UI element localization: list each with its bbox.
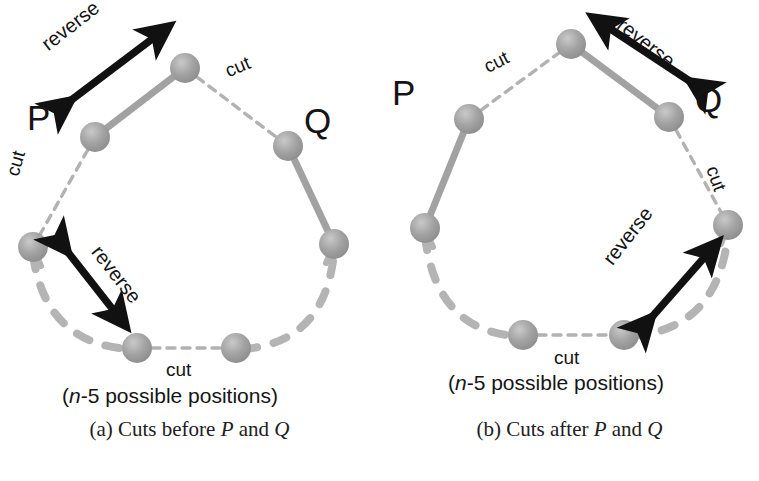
solid-edge-p-apex xyxy=(95,68,185,137)
caption-p-b: P xyxy=(594,417,607,441)
label-q-a: Q xyxy=(304,103,331,138)
solid-edge-q-right xyxy=(288,146,334,244)
panel-a: reverse cut P Q cut reverse cut (n-5 pos… xyxy=(0,0,379,481)
caption-b: (b) Cuts after P and Q xyxy=(380,419,759,440)
diagram-a-graphics xyxy=(0,0,379,400)
node-q-a xyxy=(273,131,303,161)
node-right-a xyxy=(319,229,349,259)
nodes-a xyxy=(18,53,349,363)
label-cut-bottom-a: cut xyxy=(166,360,191,379)
caption-a: (a) Cuts before P and Q xyxy=(0,419,379,440)
node-left-b xyxy=(410,213,440,243)
dashed-edge-p-left xyxy=(33,137,95,247)
node-q-b xyxy=(654,102,684,132)
node-apex-a xyxy=(170,53,200,83)
label-p-a: P xyxy=(27,100,50,135)
node-stems-b xyxy=(425,225,728,247)
annotation-n-b: n xyxy=(455,371,467,394)
caption-p-a: P xyxy=(221,417,234,441)
dashed-edge-apex-q xyxy=(185,68,288,146)
node-apex-b xyxy=(556,29,586,59)
panel-b: P cut reverse Q cut reverse cut (n-5 pos… xyxy=(380,0,759,481)
node-p-a xyxy=(80,122,110,152)
solid-edge-p-left xyxy=(425,119,469,228)
diagram-b-graphics xyxy=(380,0,759,400)
caption-text-b: Cuts after xyxy=(506,417,588,441)
nodes-b xyxy=(410,29,743,350)
node-bottom-right-a xyxy=(221,333,251,363)
annotation-positions-a: (n-5 possible positions) xyxy=(62,385,278,406)
annotation-open-paren-b: ( xyxy=(448,371,455,394)
node-left-a xyxy=(18,232,48,262)
caption-text-a: Cuts before xyxy=(118,417,215,441)
annotation-rest-a: -5 possible positions) xyxy=(81,384,278,407)
caption-and-a: and xyxy=(239,417,269,441)
node-p-b xyxy=(454,104,484,134)
caption-and-b: and xyxy=(612,417,642,441)
node-right-b xyxy=(713,210,743,240)
node-bottom-right-b xyxy=(609,320,639,350)
label-q-b: Q xyxy=(695,82,722,117)
label-p-b: P xyxy=(392,75,415,110)
annotation-rest-b: -5 possible positions) xyxy=(467,371,664,394)
annotation-open-paren-a: ( xyxy=(62,384,69,407)
node-bottom-left-b xyxy=(508,320,538,350)
dashed-edges-b xyxy=(469,44,728,335)
caption-q-b: Q xyxy=(647,417,662,441)
dashed-edges-a xyxy=(33,68,288,348)
label-cut-bottom-b: cut xyxy=(554,348,579,367)
node-bottom-left-a xyxy=(122,333,152,363)
dashed-arc-bottom-left-b xyxy=(425,236,517,336)
dashed-arc-bottom-right-a xyxy=(243,253,334,349)
figure-container: reverse cut P Q cut reverse cut (n-5 pos… xyxy=(0,0,759,481)
caption-prefix-b: (b) xyxy=(476,417,501,441)
solid-edges-b xyxy=(425,44,669,228)
caption-q-a: Q xyxy=(274,417,289,441)
annotation-n-a: n xyxy=(69,384,81,407)
reverse-arrow-bottom-b xyxy=(651,243,717,318)
caption-prefix-a: (a) xyxy=(89,417,112,441)
annotation-positions-b: (n-5 possible positions) xyxy=(448,372,664,393)
